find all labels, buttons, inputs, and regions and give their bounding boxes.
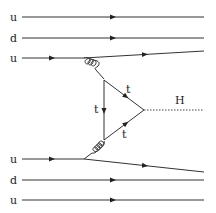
quark-line-interacting xyxy=(22,159,204,172)
gluon-upper xyxy=(84,57,104,79)
gluon-lower xyxy=(84,141,104,159)
left-edge-label: t xyxy=(94,103,99,116)
upper-proton: u d u xyxy=(10,11,204,65)
top-edge-label: t xyxy=(126,83,131,96)
higgs-label: H xyxy=(175,94,185,107)
lower-proton: u d u xyxy=(10,153,204,207)
quark-label: u xyxy=(10,153,17,166)
quark-label: d xyxy=(10,32,17,45)
bottom-edge-label: t xyxy=(122,128,127,141)
top-quark-loop: t t t xyxy=(94,80,144,141)
quark-label: u xyxy=(10,11,17,24)
quark-label: u xyxy=(10,52,17,65)
feynman-diagram: u d u t t t H u d u xyxy=(0,0,216,213)
quark-line-interacting xyxy=(22,51,204,58)
quark-label: u xyxy=(10,194,17,207)
quark-label: d xyxy=(10,174,17,187)
